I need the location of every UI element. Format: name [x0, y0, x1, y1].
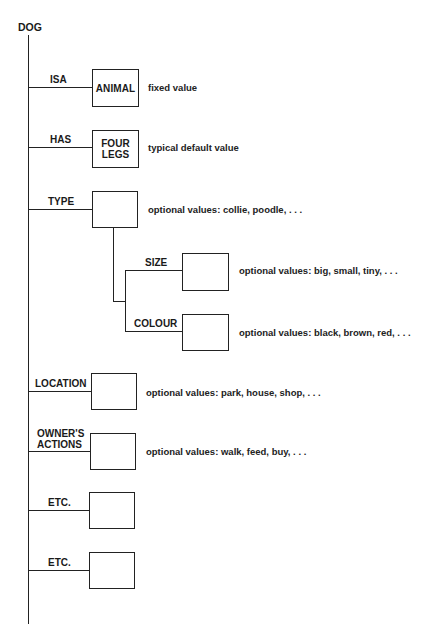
branch-line-has [28, 147, 92, 148]
slot-label-isa: ISA [50, 74, 67, 85]
slot-box-owners-actions [90, 433, 136, 470]
slot-label-has: HAS [50, 134, 71, 145]
slot-note-owners-actions: optional values: walk, feed, buy, . . . [146, 446, 306, 457]
branch-line-owners-actions [28, 451, 92, 452]
slot-note-has: typical default value [148, 142, 239, 153]
branch-line-size [125, 270, 182, 271]
branch-line-type [28, 209, 92, 210]
slot-box-type [92, 191, 138, 228]
main-trunk-line [28, 35, 29, 624]
slot-box-size [182, 253, 229, 291]
branch-line-etc-2 [28, 570, 90, 571]
slot-note-size: optional values: big, small, tiny, . . . [239, 265, 398, 276]
slot-note-type: optional values: collie, poodle, . . . [148, 204, 302, 215]
slot-note-isa: fixed value [148, 82, 197, 93]
branch-line-etc-1 [28, 510, 90, 511]
slot-label-colour: COLOUR [134, 318, 177, 329]
slot-label-size: SIZE [145, 257, 167, 268]
slot-box-etc-1 [89, 492, 135, 529]
slot-label-etc-1: ETC. [48, 497, 71, 508]
branch-line-isa [28, 87, 92, 88]
slot-label-location: LOCATION [35, 378, 86, 389]
slot-label-type: TYPE [48, 196, 74, 207]
slot-label-etc-2: ETC. [48, 557, 71, 568]
root-label: DOG [18, 21, 42, 33]
slot-box-has: FOUR LEGS [92, 130, 139, 168]
slot-label-owners-actions: OWNER'S ACTIONS [37, 428, 84, 450]
subtree-trunk-line [125, 270, 126, 332]
subtree-stem-line [113, 228, 114, 302]
slot-box-colour [182, 314, 229, 351]
slot-box-isa: ANIMAL [92, 69, 139, 107]
slot-box-location [91, 373, 137, 410]
branch-line-colour [125, 331, 182, 332]
slot-note-colour: optional values: black, brown, red, . . … [239, 327, 411, 338]
slot-box-etc-2 [89, 552, 135, 589]
slot-note-location: optional values: park, house, shop, . . … [146, 387, 321, 398]
branch-line-location [28, 391, 92, 392]
frame-diagram: DOG ISA ANIMAL fixed value HAS FOUR LEGS… [0, 0, 434, 644]
